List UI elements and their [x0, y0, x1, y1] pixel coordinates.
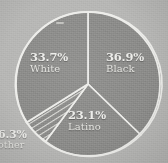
slice-name-white: White [30, 64, 68, 74]
pie-chart-figure: 36.9% Black 33.7% White 23.1% Latino 6.3… [0, 0, 168, 163]
slice-percent-black: 36.9% [106, 52, 144, 64]
slice-label-white: 33.7% White [30, 52, 68, 74]
slice-name-other: other [0, 140, 27, 150]
slice-label-latino: 23.1% Latino [68, 110, 106, 132]
print-artifact-mark [56, 22, 64, 24]
slice-label-other: 6.3% other [0, 129, 27, 150]
slice-percent-white: 33.7% [30, 52, 68, 64]
slice-percent-latino: 23.1% [68, 110, 106, 122]
slice-name-latino: Latino [68, 122, 106, 132]
slice-name-black: Black [106, 64, 144, 74]
slice-label-black: 36.9% Black [106, 52, 144, 74]
